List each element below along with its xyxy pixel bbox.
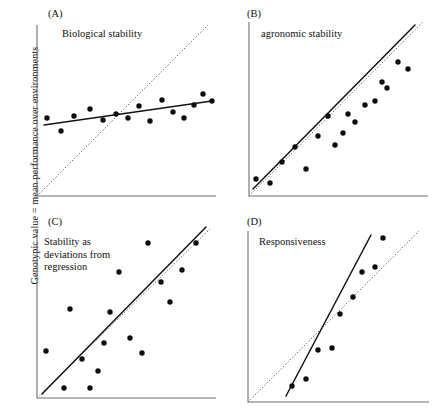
panel-b-points xyxy=(253,59,410,185)
panel-b-axes xyxy=(249,22,428,196)
panel-a-tag: (A) xyxy=(48,8,63,19)
panel-d-identity-line xyxy=(248,231,419,402)
panel-d-regression-line xyxy=(286,235,371,396)
panel-a-caption: Biological stability xyxy=(62,28,142,41)
panel-a-identity-line xyxy=(37,25,208,196)
panel-a: (A) Biological stability xyxy=(30,8,220,208)
panel-b-regression-line xyxy=(253,25,415,189)
panel-b-tag: (B) xyxy=(247,8,261,19)
panel-b: (B) agronomic stability xyxy=(243,8,432,208)
figure-panel-grid: Genotypic value = mean performance over … xyxy=(0,0,432,418)
panel-c: (C) Stability as deviations from regress… xyxy=(30,216,220,412)
panel-d-tag: (D) xyxy=(247,216,262,227)
panel-d-axes xyxy=(248,231,429,402)
panel-d: (D) Responsiveness xyxy=(243,216,432,412)
panel-d-caption: Responsiveness xyxy=(259,236,326,249)
panel-c-caption: Stability as deviations from regression xyxy=(44,236,110,274)
panel-c-tag: (C) xyxy=(48,216,62,227)
panel-a-axes xyxy=(37,25,216,196)
panel-b-identity-line xyxy=(249,22,423,196)
panel-d-points xyxy=(289,235,385,388)
panel-b-caption: agronomic stability xyxy=(261,28,342,41)
